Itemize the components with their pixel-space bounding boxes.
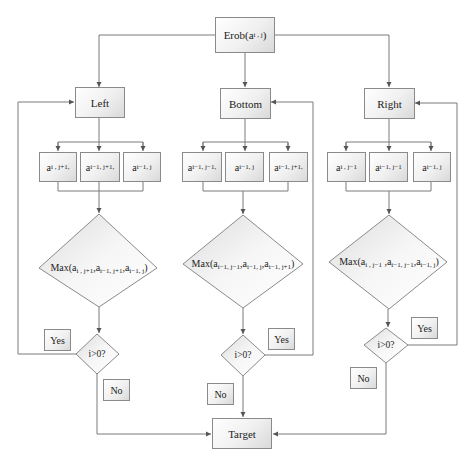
- start-subscript: i , j: [254, 31, 263, 39]
- direction-label: Bottom: [229, 98, 262, 110]
- max-label-right: Max(ai , j−1 ,ai−1, j−1,ai−1, j): [339, 256, 439, 269]
- neighbor-node: ai−1, j−1,: [182, 152, 222, 182]
- neighbor-node: ai , j+1,: [39, 152, 77, 182]
- no-label-bottom: No: [207, 383, 234, 405]
- neighbor-sub: i , j−1: [340, 163, 357, 171]
- no-label-left: No: [103, 379, 130, 401]
- neighbor-node: ai−1, j+1,: [269, 152, 308, 182]
- yes-label-left: Yes: [44, 329, 71, 351]
- start-node-erob: Erob(ai , j): [215, 17, 275, 53]
- neighbor-node: ai−1, j: [225, 152, 264, 182]
- condition-label-left: i>0?: [89, 349, 106, 359]
- neighbor-sub: i , j+1,: [51, 163, 69, 171]
- neighbor-sub: i−1, j−1,: [192, 163, 216, 171]
- direction-label: Right: [377, 98, 401, 110]
- start-label: Erob(a: [224, 29, 254, 41]
- condition-label-right: i>0?: [378, 340, 395, 350]
- neighbor-node: ai−1, j: [413, 152, 451, 182]
- neighbor-sub: i−1, j: [427, 163, 442, 171]
- target-label: Target: [228, 428, 256, 440]
- neighbor-sub: i−1, j+1,: [90, 163, 114, 171]
- neighbor-node: ai , j−1: [327, 152, 366, 182]
- neighbor-node: ai−1, j: [123, 152, 161, 182]
- neighbor-sub: i−1, j: [137, 163, 152, 171]
- max-label-bottom: Max(ai−1, j−1,ai−1, j,ai−1, j+1): [192, 258, 295, 271]
- no-label-right: No: [350, 367, 377, 389]
- direction-node-bottom: Bottom: [220, 88, 271, 119]
- neighbor-node: ai−1, j−1: [369, 152, 408, 182]
- yes-label-right: Yes: [411, 317, 438, 339]
- neighbor-node: ai−1, j+1,: [80, 152, 120, 182]
- direction-node-right: Right: [364, 88, 415, 119]
- start-close: ): [263, 29, 267, 41]
- target-node: Target: [212, 418, 272, 449]
- yes-label-bottom: Yes: [268, 328, 295, 350]
- condition-label-bottom: i>0?: [235, 350, 252, 360]
- connector-lines: [0, 0, 471, 464]
- direction-node-left: Left: [75, 87, 125, 118]
- max-diamond-left: [39, 214, 157, 307]
- max-label-left: Max(ai , j+1,ai−1, j+1,ai−1, j): [50, 262, 147, 275]
- direction-label: Left: [91, 97, 109, 109]
- neighbor-sub: i−1, j: [239, 163, 254, 171]
- neighbor-sub: i−1, j+1,: [279, 163, 303, 171]
- neighbor-sub: i−1, j−1: [380, 163, 402, 171]
